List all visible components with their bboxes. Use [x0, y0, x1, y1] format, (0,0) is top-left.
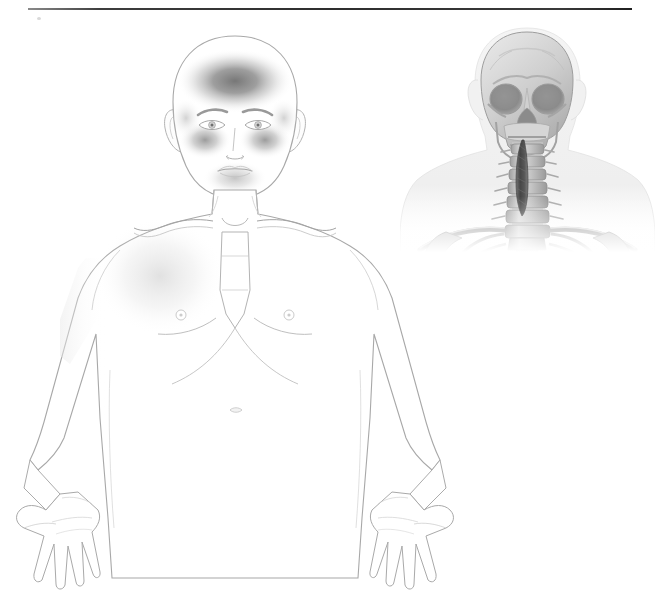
head-group [165, 36, 306, 198]
navel [230, 408, 242, 413]
maxilla [504, 123, 550, 141]
right-eye [245, 121, 271, 130]
left-pupil [211, 124, 214, 127]
left-nipple [176, 310, 186, 320]
skull-cervical-spine-inset [400, 22, 655, 252]
right-hand-outline [370, 492, 454, 589]
inset-bottom-fade [400, 197, 655, 252]
left-arm-hand-group [17, 460, 101, 589]
left-hand-outline [17, 492, 101, 589]
vertebra-c1 [511, 144, 544, 154]
right-nipple [284, 310, 294, 320]
pain-area-left-chest [96, 218, 224, 334]
figure-canvas [0, 0, 659, 611]
left-eye [199, 121, 225, 130]
right-arm-hand-group [370, 460, 454, 589]
right-pupil [257, 124, 260, 127]
top-divider-rule [28, 8, 632, 10]
